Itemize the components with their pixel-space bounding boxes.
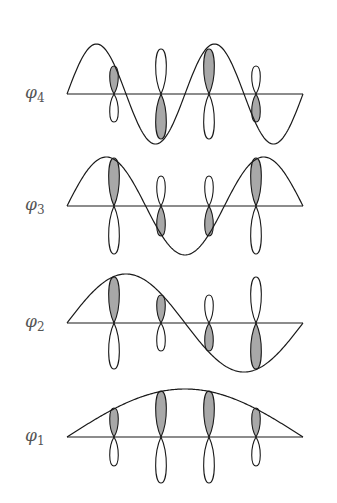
open-lobe [109,323,120,369]
shaded-lobe [204,49,215,94]
shaded-lobe [156,391,167,437]
shaded-lobe [110,408,119,437]
orbital-phi3 [67,157,303,255]
open-lobe [204,94,215,139]
shaded-lobe [157,206,166,236]
open-lobe [157,323,166,351]
shaded-lobe [205,206,214,236]
shaded-lobe [109,277,120,323]
shaded-lobe [156,94,167,139]
orbital-label-phi4: φ4 [25,82,45,105]
open-lobe [156,49,167,94]
orbital-label-phi2: φ2 [25,311,45,334]
shaded-lobe [205,323,214,351]
orbital-phi1 [67,389,303,483]
orbital-label-phi1: φ1 [25,425,45,448]
open-lobe [156,437,167,483]
mo-diagram [0,0,337,503]
open-lobe [252,66,261,94]
shaded-lobe [251,323,262,369]
open-lobe [110,437,119,466]
open-lobe [157,176,166,206]
orbital-phi4 [67,44,303,144]
open-lobe [252,437,261,466]
open-lobe [251,206,262,254]
open-lobe [205,176,214,206]
open-lobe [109,206,120,254]
shaded-lobe [109,158,120,206]
orbital-label-phi3: φ3 [25,194,45,217]
shaded-lobe [157,295,166,323]
wavefunction-curve [67,389,303,437]
shaded-lobe [204,391,215,437]
open-lobe [110,94,119,122]
shaded-lobe [252,408,261,437]
open-lobe [204,437,215,483]
shaded-lobe [251,158,262,206]
open-lobe [251,277,262,323]
orbital-phi2 [67,274,303,372]
open-lobe [205,295,214,323]
